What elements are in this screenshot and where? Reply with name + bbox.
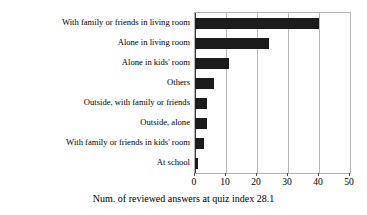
x-tick-label: 20	[241, 176, 271, 188]
bar	[195, 38, 269, 49]
x-tick-label: 0	[179, 176, 209, 188]
bar	[195, 118, 207, 129]
x-axis-caption: Num. of reviewed answers at quiz index 2…	[0, 192, 367, 205]
x-tick-label: 30	[272, 176, 302, 188]
x-tick-label: 10	[210, 176, 240, 188]
category-label: At school	[0, 157, 190, 167]
bar	[195, 138, 204, 149]
category-label: Alone in kids' room	[0, 57, 190, 67]
bar	[195, 18, 319, 29]
bar-chart-figure: With family or friends in living roomAlo…	[0, 0, 367, 215]
bar	[195, 98, 207, 109]
x-axis: 01020304050	[194, 173, 349, 191]
category-label: With family or friends in kids' room	[0, 137, 190, 147]
bar	[195, 158, 198, 169]
category-label: With family or friends in living room	[0, 17, 190, 27]
x-tick-label: 50	[334, 176, 364, 188]
category-label: Alone in living room	[0, 37, 190, 47]
bar	[195, 78, 214, 89]
gridline-50	[350, 13, 351, 173]
bar	[195, 58, 229, 69]
category-label: Outside, with family or friends	[0, 97, 190, 107]
bar-series	[195, 13, 350, 173]
category-label-column: With family or friends in living roomAlo…	[0, 12, 190, 172]
category-label: Others	[0, 77, 190, 87]
category-label: Outside, alone	[0, 117, 190, 127]
plot-area	[194, 12, 351, 174]
x-tick-label: 40	[303, 176, 333, 188]
